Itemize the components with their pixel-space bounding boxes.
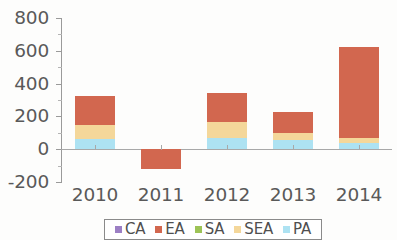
legend-item-ea[interactable]: EA bbox=[155, 222, 184, 237]
legend-swatch-icon bbox=[115, 226, 122, 233]
stacked-bar-chart: 8006004002000-200 20102011201220132014 C… bbox=[0, 0, 397, 240]
y-axis-label: -200 bbox=[8, 173, 49, 192]
legend-item-ca[interactable]: CA bbox=[115, 222, 145, 237]
x-axis-label: 2013 bbox=[270, 186, 316, 205]
legend-label: SEA bbox=[244, 222, 273, 237]
x-axis-label: 2011 bbox=[138, 186, 184, 205]
x-axis-label: 2010 bbox=[72, 186, 118, 205]
bar-segment-ea[interactable] bbox=[273, 112, 313, 133]
y-axis-label: 800 bbox=[14, 9, 49, 28]
bar-group[interactable] bbox=[207, 18, 247, 182]
bar-segment-ea[interactable] bbox=[207, 93, 247, 122]
bar-group[interactable] bbox=[141, 18, 181, 182]
y-axis-label: 0 bbox=[37, 140, 49, 159]
bar-segment-sea[interactable] bbox=[207, 122, 247, 138]
legend-label: SA bbox=[205, 222, 225, 237]
x-axis-label: 2012 bbox=[204, 186, 250, 205]
bar-segment-sea[interactable] bbox=[339, 138, 379, 144]
y-axis-label: 400 bbox=[14, 74, 49, 93]
bar-segment-sea[interactable] bbox=[75, 125, 115, 138]
x-axis-tick bbox=[293, 145, 294, 150]
x-axis-tick bbox=[95, 145, 96, 150]
bars-layer bbox=[62, 18, 392, 182]
legend-item-sea[interactable]: SEA bbox=[234, 222, 273, 237]
x-axis-tick bbox=[227, 145, 228, 150]
legend-label: PA bbox=[293, 222, 311, 237]
legend-item-pa[interactable]: PA bbox=[283, 222, 311, 237]
bar-segment-sea[interactable] bbox=[273, 133, 313, 140]
bar-segment-ea[interactable] bbox=[339, 47, 379, 138]
legend-swatch-icon bbox=[283, 226, 290, 233]
bar-segment-ea[interactable] bbox=[141, 149, 181, 169]
x-axis-label: 2014 bbox=[336, 186, 382, 205]
chart-legend: CAEASASEAPA bbox=[104, 219, 322, 240]
bar-group[interactable] bbox=[339, 18, 379, 182]
legend-swatch-icon bbox=[195, 226, 202, 233]
bar-group[interactable] bbox=[273, 18, 313, 182]
legend-swatch-icon bbox=[155, 226, 162, 233]
x-axis-tick bbox=[161, 145, 162, 150]
bar-segment-ea[interactable] bbox=[75, 96, 115, 126]
legend-item-sa[interactable]: SA bbox=[195, 222, 225, 237]
bar-group[interactable] bbox=[75, 18, 115, 182]
x-axis-tick bbox=[359, 145, 360, 150]
legend-label: EA bbox=[165, 222, 184, 237]
legend-label: CA bbox=[125, 222, 145, 237]
y-axis-tick bbox=[56, 182, 62, 183]
legend-swatch-icon bbox=[234, 226, 241, 233]
y-axis-label: 600 bbox=[14, 42, 49, 61]
y-axis-label: 200 bbox=[14, 107, 49, 126]
